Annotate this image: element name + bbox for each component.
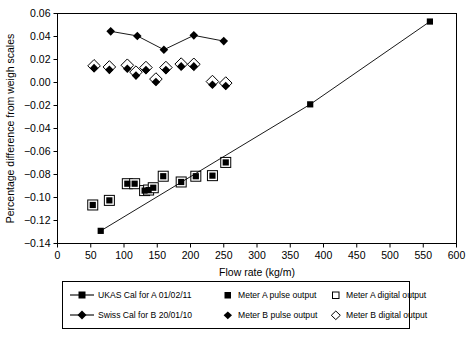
x-tick-label: 200 [182,249,200,261]
x-tick-label: 300 [248,249,266,261]
scatter-chart: 050100150200250300350400450500550600−0.1… [0,0,475,280]
data-point-marker [160,173,166,179]
legend-grid: UKAS Cal for A 01/02/11 Meter A pulse ou… [63,282,409,328]
y-tick-label: 0.06 [30,7,51,19]
legend-item-meter-b-digital: Meter B digital output [329,309,427,321]
x-tick-label: 100 [115,249,133,261]
data-point-marker [190,31,199,40]
legend-label: Meter A digital output [346,291,426,300]
data-point-marker [132,181,138,187]
y-tick-label: 0.04 [30,30,51,42]
x-tick-label: 550 [414,249,432,261]
open-square-icon [329,289,343,301]
data-point-marker [427,18,433,24]
data-point-marker [150,185,156,191]
series-ukas-cal-for-a-01-02-11 [98,18,433,234]
legend-label: UKAS Cal for A 01/02/11 [98,291,191,300]
data-point-marker [307,101,313,107]
series-swiss-cal-for-b-20-01-10 [106,27,228,54]
legend-item-meter-a-digital: Meter A digital output [329,289,427,301]
line-filled-square-icon [69,289,95,301]
data-point-marker [133,32,142,41]
filled-diamond-icon [221,309,235,321]
data-point-marker [90,202,96,208]
data-point-marker [193,173,199,179]
y-tick-label: −0.06 [24,145,51,157]
chart-legend: UKAS Cal for A 01/02/11 Meter A pulse ou… [62,281,410,329]
legend-label: Meter B pulse output [238,311,317,320]
data-point-marker [223,159,229,165]
y-tick-label: 0.02 [30,53,51,65]
data-point-marker [98,228,104,234]
plot-area: 050100150200250300350400450500550600−0.1… [0,0,475,280]
y-tick-label: −0.14 [24,237,51,249]
data-point-marker [160,45,169,54]
x-tick-label: 150 [148,249,166,261]
line-filled-diamond-icon [69,309,95,321]
x-tick-label: 500 [381,249,399,261]
filled-square-icon [221,289,235,301]
x-axis-title: Flow rate (kg/m) [219,266,295,278]
data-point-marker [209,173,215,179]
data-point-marker [124,181,130,187]
plot-frame [58,14,457,244]
legend-item-swiss-cal-b: Swiss Cal for B 20/01/10 [69,309,221,321]
x-tick-label: 600 [448,249,466,261]
x-tick-label: 450 [348,249,366,261]
y-tick-label: −0.02 [24,99,51,111]
legend-item-meter-a-pulse: Meter A pulse output [221,289,329,301]
x-tick-label: 400 [315,249,333,261]
x-tick-label: 250 [215,249,233,261]
legend-item-meter-b-pulse: Meter B pulse output [221,309,329,321]
series-line [111,31,224,49]
y-axis-title: Percentage difference from weigh scales [4,34,16,224]
open-diamond-icon [329,309,343,321]
x-tick-label: 0 [55,249,61,261]
y-tick-label: −0.04 [24,122,51,134]
legend-label: Swiss Cal for B 20/01/10 [98,311,192,320]
series-meter-a-pulse-output [90,159,229,208]
chart-page: 050100150200250300350400450500550600−0.1… [0,0,475,341]
y-tick-label: −0.12 [24,214,51,226]
series-line [101,22,430,231]
data-point-marker [219,37,228,46]
x-tick-label: 350 [281,249,299,261]
data-point-marker [106,27,115,36]
legend-label: Meter B digital output [346,311,427,320]
data-point-marker [106,197,112,203]
x-tick-label: 50 [85,249,97,261]
legend-label: Meter A pulse output [238,291,316,300]
y-tick-label: 0.00 [30,76,51,88]
legend-item-ukas-cal-a: UKAS Cal for A 01/02/11 [69,289,221,301]
y-tick-label: −0.10 [24,191,51,203]
y-tick-label: −0.08 [24,168,51,180]
